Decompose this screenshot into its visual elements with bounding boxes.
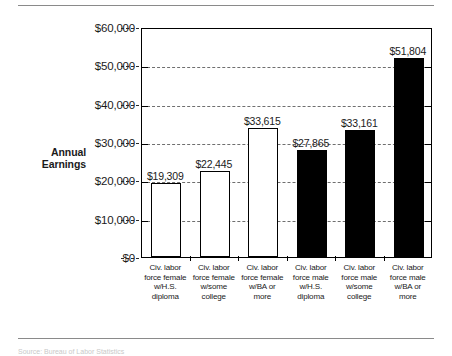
x-category-label: Civ. laborforce malew/somecollege <box>335 263 384 301</box>
gridline <box>142 106 431 107</box>
y-tick-dash <box>121 105 139 106</box>
bar[interactable] <box>345 130 375 257</box>
x-category-label-line: Civ. labor <box>190 263 239 273</box>
x-category-separator <box>384 256 385 261</box>
y-tick-dash <box>121 258 139 259</box>
x-category-label: Civ. laborforce femalew/H.S.diploma <box>141 263 190 301</box>
axis-tick-left <box>142 182 148 183</box>
x-category-separator <box>190 256 191 261</box>
bar-value-label: $19,309 <box>135 170 195 182</box>
bar[interactable] <box>248 128 278 257</box>
y-axis-title-line-2: Earnings <box>8 158 86 170</box>
x-category-label-line: force female <box>238 273 287 283</box>
x-category-label-line: more <box>238 292 287 302</box>
x-category-label-line: diploma <box>287 292 336 302</box>
x-category-label-line: force male <box>335 273 384 283</box>
x-category-label-line: Civ. labor <box>384 263 433 273</box>
x-category-label: Civ. laborforce femalew/somecollege <box>190 263 239 301</box>
x-category-label-line: force female <box>141 273 190 283</box>
x-category-label-line: college <box>190 292 239 302</box>
bar-value-label: $51,804 <box>378 45 438 57</box>
x-category-label-line: w/BA or <box>384 282 433 292</box>
x-category-label: Civ. laborforce malew/H.S.diploma <box>287 263 336 301</box>
x-category-label-line: w/some <box>190 282 239 292</box>
x-category-separator <box>287 256 288 261</box>
axis-tick-left <box>142 67 148 68</box>
x-category-label: Civ. laborforce malew/BA ormore <box>384 263 433 301</box>
x-category-label-line: w/H.S. <box>141 282 190 292</box>
bottom-divider-rule <box>18 338 434 339</box>
footnote-text: Source: Bureau of Labor Statistics <box>18 347 434 356</box>
bar-value-label: $33,615 <box>232 115 292 127</box>
axis-tick-left <box>142 144 148 145</box>
x-category-label-line: force male <box>287 273 336 283</box>
axis-tick-left <box>142 106 148 107</box>
bar-value-label: $22,445 <box>184 158 244 170</box>
bar-chart-figure: Source: Bureau of Labor Statistics Annua… <box>0 0 452 356</box>
x-category-label-line: more <box>384 292 433 302</box>
axis-tick-right <box>425 67 431 68</box>
axis-tick-right <box>425 144 431 145</box>
y-tick-dash <box>121 143 139 144</box>
top-divider-rule <box>18 5 434 6</box>
bar[interactable] <box>297 150 327 257</box>
axis-tick-right <box>425 182 431 183</box>
axis-tick-right <box>425 221 431 222</box>
x-category-label-line: w/some <box>335 282 384 292</box>
bar-value-label: $27,865 <box>281 137 341 149</box>
gridline <box>142 221 431 222</box>
y-tick-dash <box>121 220 139 221</box>
bar[interactable] <box>151 183 181 257</box>
gridline <box>142 182 431 183</box>
x-category-label-line: Civ. labor <box>141 263 190 273</box>
axis-tick-left <box>142 221 148 222</box>
x-category-label-line: college <box>335 292 384 302</box>
axis-tick-right <box>425 106 431 107</box>
x-category-label: Civ. laborforce femalew/BA ormore <box>238 263 287 301</box>
bar-value-label: $33,161 <box>329 117 389 129</box>
gridline <box>142 67 431 68</box>
x-category-label-line: force male <box>384 273 433 283</box>
x-category-label-line: w/BA or <box>238 282 287 292</box>
x-category-label-line: Civ. labor <box>287 263 336 273</box>
y-tick-dash <box>121 66 139 67</box>
x-category-separator <box>335 256 336 261</box>
bar[interactable] <box>394 58 424 257</box>
x-category-label-line: w/H.S. <box>287 282 336 292</box>
y-tick-dash <box>121 28 139 29</box>
x-category-label-line: Civ. labor <box>238 263 287 273</box>
bar[interactable] <box>200 171 230 257</box>
x-category-label-line: force female <box>190 273 239 283</box>
x-category-separator <box>238 256 239 261</box>
x-category-label-line: Civ. labor <box>335 263 384 273</box>
x-category-label-line: diploma <box>141 292 190 302</box>
